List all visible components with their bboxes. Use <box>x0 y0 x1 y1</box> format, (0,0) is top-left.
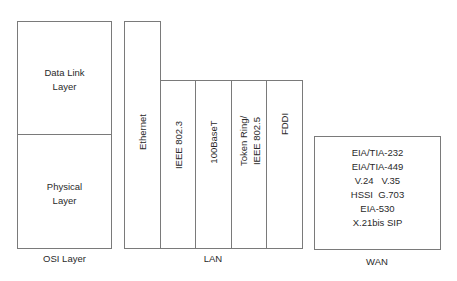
lan-column-token-ring: Token Ring/ IEEE 802.5 <box>231 80 267 249</box>
lan-column-fddi: FDDI <box>266 80 303 249</box>
ethernet-label-svg: Ethernet <box>125 22 160 248</box>
wan-box: EIA/TIA-232 EIA/TIA-449 V.24 V.35 HSSI G… <box>314 136 441 250</box>
fddi-label: FDDI <box>279 113 290 135</box>
wan-standard-v24-v35: V.24 V.35 <box>315 174 440 188</box>
physical-layer-label: Physical Layer <box>18 180 111 208</box>
data-link-layer-line1: Data Link <box>18 66 111 80</box>
wan-standard-x21bis-sip: X.21bis SIP <box>315 216 440 230</box>
fddi-label-svg: FDDI <box>267 81 302 248</box>
lan-column-100baset: 100BaseT <box>195 80 232 249</box>
osi-layer-caption: OSI Layer <box>17 253 112 264</box>
physical-layer-line2: Layer <box>18 194 111 208</box>
token-ring-label-line2: IEEE 802.5 <box>251 117 262 165</box>
lan-caption: LAN <box>183 253 243 264</box>
wan-standard-eia-530: EIA-530 <box>315 202 440 216</box>
ethernet-label: Ethernet <box>137 114 148 150</box>
token-ring-label-svg: Token Ring/ IEEE 802.5 <box>232 81 266 248</box>
lan-column-ieee-802-3: IEEE 802.3 <box>160 80 196 249</box>
wan-standard-eia-tia-232: EIA/TIA-232 <box>315 146 440 160</box>
lan-column-ethernet: Ethernet <box>124 21 161 249</box>
100baset-label-svg: 100BaseT <box>196 81 231 248</box>
token-ring-label-line1: Token Ring/ <box>238 116 249 167</box>
wan-caption: WAN <box>347 256 407 267</box>
wan-standards-list: EIA/TIA-232 EIA/TIA-449 V.24 V.35 HSSI G… <box>315 146 440 230</box>
ieee-802-3-label-svg: IEEE 802.3 <box>161 81 195 248</box>
100baset-label: 100BaseT <box>208 120 219 164</box>
data-link-layer-line2: Layer <box>18 80 111 94</box>
wan-standard-hssi-g703: HSSI G.703 <box>315 188 440 202</box>
osi-data-link-layer-box: Data Link Layer <box>17 21 112 135</box>
physical-layer-line1: Physical <box>18 180 111 194</box>
data-link-layer-label: Data Link Layer <box>18 66 111 94</box>
osi-physical-layer-box: Physical Layer <box>17 134 112 249</box>
ieee-802-3-label: IEEE 802.3 <box>173 121 184 169</box>
wan-standard-eia-tia-449: EIA/TIA-449 <box>315 160 440 174</box>
